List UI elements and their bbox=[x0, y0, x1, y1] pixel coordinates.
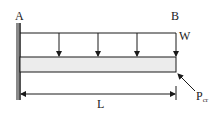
label-free-end: B bbox=[171, 9, 179, 23]
label-load: W bbox=[179, 29, 191, 43]
cantilever-diagram: A B W L Pcr bbox=[0, 0, 222, 117]
beam bbox=[20, 57, 176, 72]
fixed-support-wall bbox=[16, 23, 20, 100]
critical-load-arrow-icon bbox=[178, 74, 195, 91]
label-fixed-end: A bbox=[15, 9, 24, 23]
label-critical-load-sub: cr bbox=[203, 96, 209, 104]
label-critical-load: Pcr bbox=[196, 89, 209, 104]
distributed-load bbox=[20, 33, 176, 56]
label-length: L bbox=[97, 97, 104, 111]
